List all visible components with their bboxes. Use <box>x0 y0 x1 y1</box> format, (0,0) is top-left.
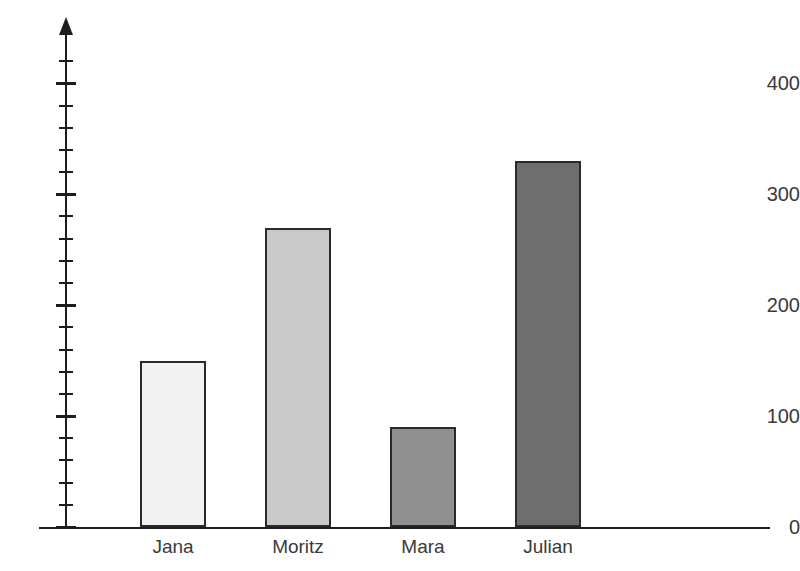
y-axis-minor-tick <box>59 149 73 151</box>
y-axis-arrow-icon <box>59 17 73 35</box>
x-axis-label-mara: Mara <box>361 536 486 558</box>
y-axis-minor-tick <box>59 127 73 129</box>
y-axis-minor-tick <box>59 504 73 506</box>
x-axis-label-julian: Julian <box>486 536 611 558</box>
bar-moritz <box>265 228 331 527</box>
y-axis-minor-tick <box>59 326 73 328</box>
y-axis-tick-label: 0 <box>754 516 800 539</box>
y-axis-tick-label: 200 <box>754 294 800 317</box>
y-axis-minor-tick <box>59 371 73 373</box>
x-axis-label-jana: Jana <box>111 536 236 558</box>
y-axis-minor-tick <box>59 238 73 240</box>
x-axis-line <box>39 527 770 529</box>
plot-area: 0100200300400 JanaMoritzMaraJulian <box>0 0 800 571</box>
y-axis-major-tick <box>56 415 76 418</box>
bar-julian <box>515 161 581 527</box>
y-axis-major-tick <box>56 193 76 196</box>
y-axis-minor-tick <box>59 60 73 62</box>
y-axis-minor-tick <box>59 459 73 461</box>
y-axis-minor-tick <box>59 215 73 217</box>
x-axis-label-moritz: Moritz <box>236 536 361 558</box>
y-axis-major-tick <box>56 304 76 307</box>
y-axis-major-tick <box>56 526 76 529</box>
y-axis-tick-label: 100 <box>754 405 800 428</box>
y-axis-major-tick <box>56 82 76 85</box>
y-axis-minor-tick <box>59 282 73 284</box>
bar-jana <box>140 361 206 527</box>
bar-mara <box>390 427 456 527</box>
y-axis-minor-tick <box>59 482 73 484</box>
bar-chart-figure: 0100200300400 JanaMoritzMaraJulian <box>0 0 800 571</box>
y-axis-tick-label: 400 <box>754 72 800 95</box>
y-axis-minor-tick <box>59 437 73 439</box>
y-axis-minor-tick <box>59 260 73 262</box>
y-axis-minor-tick <box>59 393 73 395</box>
y-axis-minor-tick <box>59 105 73 107</box>
y-axis-minor-tick <box>59 349 73 351</box>
y-axis-tick-label: 300 <box>754 183 800 206</box>
y-axis-minor-tick <box>59 171 73 173</box>
